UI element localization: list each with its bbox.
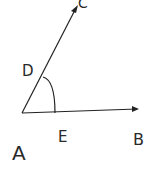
label-c: C [78, 0, 88, 11]
label-a: A [12, 141, 26, 165]
label-b: B [133, 130, 144, 149]
angle-arc [43, 77, 55, 113]
arrowhead-b-icon [132, 106, 139, 112]
label-d: D [22, 62, 34, 80]
ray-ab [22, 109, 137, 113]
ray-ac [22, 8, 76, 113]
arrowhead-c-icon [71, 5, 78, 13]
label-e: E [58, 128, 67, 146]
angle-diagram: C D E B A [0, 0, 154, 169]
